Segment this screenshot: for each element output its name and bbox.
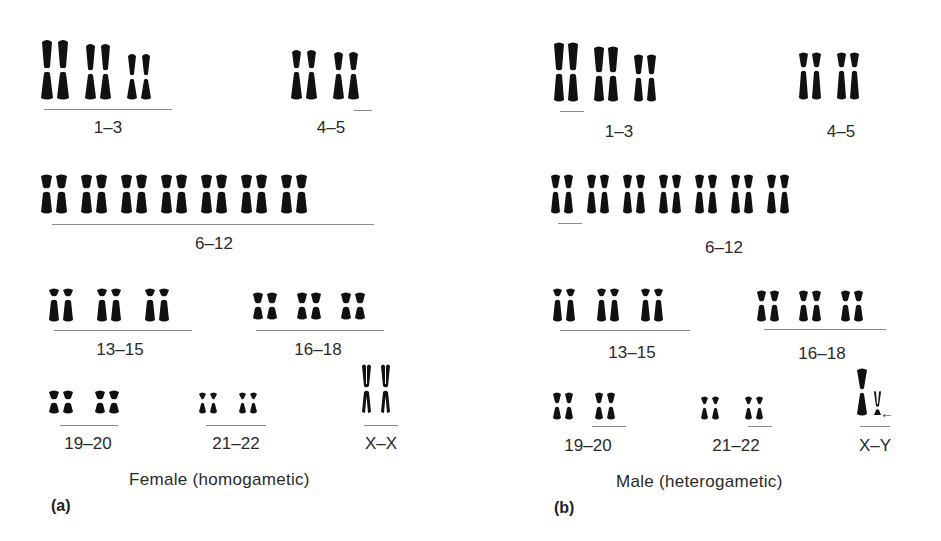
chromosome-icon — [671, 174, 682, 214]
chromosome-pair — [40, 40, 70, 100]
chromosome-set — [48, 288, 170, 322]
chromosome-icon — [215, 174, 228, 214]
group-underline — [54, 330, 192, 331]
group-label: 19–20 — [558, 436, 618, 456]
group-underline — [560, 330, 690, 331]
chromosome-pair — [126, 54, 152, 100]
chromosome-set — [290, 50, 360, 100]
chromosome-icon — [249, 392, 258, 414]
chromosome-pair — [550, 174, 574, 214]
chromosome-pair — [238, 392, 258, 414]
chromosome-icon — [347, 52, 360, 100]
group-sex-chromosomes — [361, 364, 391, 414]
group-underline — [592, 426, 626, 427]
chromosome-icon — [658, 174, 669, 214]
chromosome-pair — [296, 292, 322, 320]
chromosome-icon — [238, 392, 247, 414]
group-4-5 — [798, 52, 860, 100]
chromosome-set — [198, 392, 258, 414]
group-label: 21–22 — [706, 436, 766, 456]
chromosome-icon — [756, 290, 767, 322]
chromosome-icon — [552, 392, 562, 420]
chromosome-icon — [694, 174, 705, 214]
chromosome-icon — [798, 52, 809, 100]
chromosome-pair — [198, 392, 218, 414]
group-19-20 — [552, 392, 616, 420]
chromosome-pair — [596, 288, 620, 322]
group-label: 6–12 — [696, 238, 752, 258]
chromosome-pair — [84, 44, 112, 100]
chromosome-set — [756, 290, 864, 322]
chromosome-icon — [80, 174, 93, 214]
chromosome-pair — [160, 174, 188, 214]
chromosome-icon — [361, 364, 372, 414]
group-21-22 — [700, 396, 764, 420]
chromosome-icon — [126, 54, 138, 100]
chromosome-set — [700, 396, 764, 420]
chromosome-icon — [55, 174, 68, 214]
chromosome-set — [48, 390, 120, 414]
chromosome-pair — [622, 174, 646, 214]
group-underline — [256, 330, 384, 331]
group-6-12 — [550, 174, 790, 214]
group-21-22 — [198, 392, 258, 414]
group-underline — [52, 224, 374, 225]
chromosome-pair — [633, 54, 657, 102]
group-label: 16–18 — [792, 344, 852, 364]
chromosome-icon — [653, 288, 664, 322]
chromosome-icon — [840, 290, 851, 322]
chromosome-pair — [40, 174, 68, 214]
group-label: 13–15 — [90, 340, 150, 360]
chromosome-icon — [563, 174, 574, 214]
group-label: 19–20 — [58, 434, 118, 454]
chromosome-icon — [707, 174, 718, 214]
chromosome-icon — [175, 174, 188, 214]
chromosome-pair — [144, 288, 170, 322]
chromosome-pair — [340, 292, 366, 320]
group-13-15 — [552, 288, 664, 322]
chromosome-pair — [120, 174, 148, 214]
chromosome-pair — [836, 52, 860, 100]
chromosome-icon — [550, 174, 561, 214]
chromosome-set — [552, 392, 616, 420]
panel-female-karyotype: 1–3 4–5 6–12 13–15 16–18 19–20 21–22 X–X — [0, 0, 470, 541]
chromosome-icon — [769, 290, 780, 322]
chromosome-icon — [84, 44, 97, 100]
chromosome-pair — [700, 396, 720, 420]
chromosome-icon — [743, 174, 754, 214]
group-sex-chromosomes — [856, 368, 882, 416]
chromosome-icon — [744, 396, 753, 420]
chromosome-icon — [599, 174, 610, 214]
chromosome-pair — [290, 50, 318, 100]
group-16-18 — [252, 292, 366, 320]
chromosome-icon — [48, 288, 60, 322]
chromosome-set — [40, 174, 308, 214]
chromosome-icon — [160, 174, 173, 214]
chromosome-icon — [380, 364, 391, 414]
group-underline — [206, 425, 266, 426]
group-underline — [860, 426, 890, 427]
chromosome-pair — [553, 42, 579, 102]
chromosome-icon — [332, 52, 345, 100]
chromosome-icon — [94, 390, 106, 414]
chromosome-pair — [694, 174, 718, 214]
group-4-5 — [290, 50, 360, 100]
group-label: 4–5 — [816, 122, 866, 142]
chromosome-icon — [305, 50, 318, 100]
chromosome-pair — [594, 392, 616, 420]
chromosome-pair — [856, 368, 882, 416]
chromosome-icon — [158, 288, 170, 322]
chromosome-icon — [108, 390, 120, 414]
chromosome-icon — [280, 174, 293, 214]
chromosome-icon — [811, 290, 822, 322]
chromosome-pair — [240, 174, 268, 214]
karyotype-caption: Male (heterogametic) — [616, 472, 783, 492]
chromosome-pair — [252, 292, 278, 320]
group-underline — [60, 425, 118, 426]
chromosome-icon — [200, 174, 213, 214]
chromosome-pair — [200, 174, 228, 214]
chromosome-set — [40, 40, 152, 100]
chromosome-icon — [596, 288, 607, 322]
chromosome-pair — [94, 390, 120, 414]
karyotype-caption: Female (homogametic) — [129, 470, 310, 490]
